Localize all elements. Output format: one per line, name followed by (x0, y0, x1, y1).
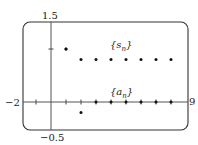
point-s-n (95, 58, 98, 61)
legend-s-n-text: {s (110, 39, 122, 50)
x-max-label: 9 (189, 97, 195, 107)
axis-ticks (36, 49, 171, 105)
legend-s-n: {sn} (110, 40, 132, 54)
point-s-n (155, 58, 158, 61)
legend-a-n-sub: n (122, 92, 127, 100)
plot-area (0, 0, 198, 145)
legend-a-n-text: {a (110, 86, 122, 97)
point-a-n (80, 111, 83, 114)
legend-s-n-sub: n (122, 45, 127, 53)
y-min-label: −0.5 (40, 133, 64, 143)
x-min-label: −2 (5, 98, 20, 108)
legend-a-n: {an} (110, 87, 133, 101)
y-max-label: 1.5 (42, 11, 58, 21)
point-a-n (155, 101, 158, 104)
point-a-n (170, 101, 173, 104)
point-s-n (125, 58, 128, 61)
point-s-n (170, 58, 173, 61)
point-a-n (65, 48, 68, 51)
point-s-n (80, 58, 83, 61)
point-a-n (95, 101, 98, 104)
point-s-n (110, 58, 113, 61)
point-s-n (140, 58, 143, 61)
plot-frame (23, 22, 188, 130)
point-a-n (140, 101, 143, 104)
